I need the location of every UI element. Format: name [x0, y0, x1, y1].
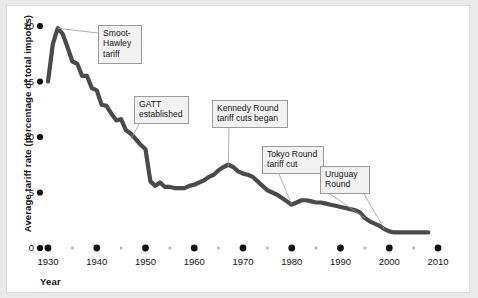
x-tick-dot-major: [191, 245, 198, 252]
y-tick-dot: [37, 245, 43, 251]
x-tick-dot-minor: [168, 247, 171, 250]
x-tick-dot-major: [337, 245, 344, 252]
annotation-callout-tokyo-round: Tokyo Round tariff cut: [262, 146, 324, 174]
y-tick-label: 20: [12, 20, 34, 31]
y-tick-label: 15: [12, 76, 34, 87]
y-tick-dot: [37, 23, 43, 29]
x-tick-dot-minor: [315, 247, 318, 250]
annotation-label: Tokyo Round tariff cut: [267, 149, 317, 169]
source-note: ·· ··: [36, 289, 49, 295]
x-tick-dot-minor: [266, 247, 269, 250]
y-tick-label: 10: [12, 131, 34, 142]
x-tick-dot-major: [435, 245, 442, 252]
x-tick-dot-major: [386, 245, 393, 252]
y-axis-label: Average tariff rate (percentage of total…: [22, 0, 33, 249]
annotation-callout-gatt-established: GATT established: [134, 96, 189, 124]
annotation-label: Uruguay Round: [325, 169, 357, 189]
annotation-callout-kennedy-round: Kennedy Round tariff cuts began: [212, 100, 288, 128]
figure-container: Average tariff rate (percentage of total…: [0, 0, 478, 298]
annotation-label: Kennedy Round tariff cuts began: [217, 103, 279, 123]
x-tick-label: 1990: [320, 256, 362, 267]
x-axis-ticks: [45, 245, 442, 252]
x-tick-label: 1930: [27, 256, 69, 267]
x-tick-dot-minor: [217, 247, 220, 250]
x-tick-dot-major: [93, 245, 100, 252]
x-tick-label: 1960: [173, 256, 215, 267]
x-tick-label: 1940: [76, 256, 118, 267]
x-tick-dot-major: [142, 245, 149, 252]
y-tick-label: 5: [12, 187, 34, 198]
annotation-label: Smoot- Hawley tariff: [103, 28, 131, 59]
x-tick-dot-major: [45, 245, 52, 252]
x-tick-label: 1950: [125, 256, 167, 267]
y-tick-dot: [37, 78, 43, 84]
y-tick-dot: [37, 134, 43, 140]
x-tick-label: 1980: [271, 256, 313, 267]
y-tick-label: 0: [12, 242, 34, 253]
x-tick-dot-minor: [412, 247, 415, 250]
chart-canvas: [0, 0, 478, 298]
x-tick-dot-minor: [363, 247, 366, 250]
x-axis-label: Year: [40, 276, 61, 287]
x-tick-label: 1970: [222, 256, 264, 267]
annotation-callout-uruguay-round: Uruguay Round: [320, 166, 370, 194]
leader-line-kennedy-round: [228, 128, 229, 166]
x-tick-dot-minor: [120, 247, 123, 250]
x-tick-label: 2010: [417, 256, 459, 267]
y-axis-ticks: [37, 23, 43, 251]
annotation-callout-smoot-hawley: Smoot- Hawley tariff: [98, 25, 142, 64]
x-tick-dot-major: [288, 245, 295, 252]
x-tick-dot-major: [240, 245, 247, 252]
y-tick-dot: [37, 189, 43, 195]
x-tick-label: 2000: [368, 256, 410, 267]
x-tick-dot-minor: [71, 247, 74, 250]
annotation-label: GATT established: [139, 99, 182, 119]
